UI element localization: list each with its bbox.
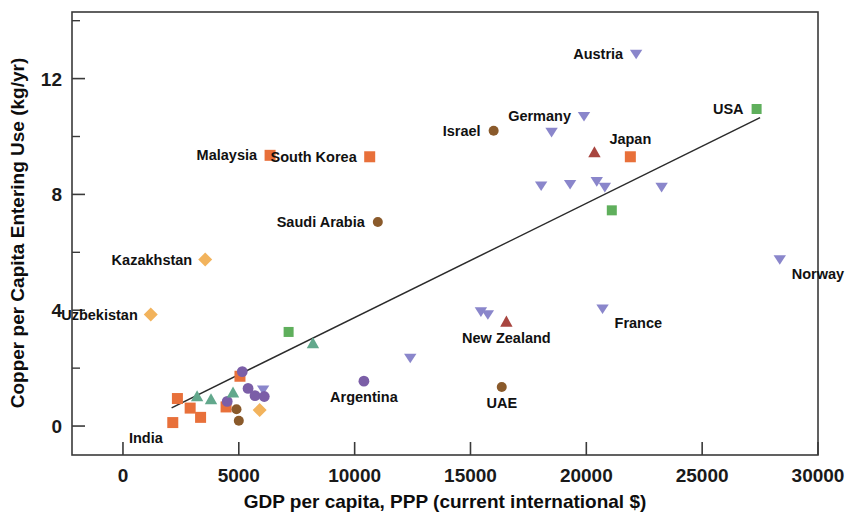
- x-tick-label: 25000: [676, 465, 729, 486]
- marker-triangle-down: [578, 112, 590, 122]
- point-label: UAE: [486, 395, 517, 411]
- chart-canvas: 04812 050001000015000200002500030000 Ind…: [0, 0, 854, 521]
- point-label: France: [615, 315, 663, 331]
- marker-square: [364, 151, 375, 162]
- marker-triangle-down: [599, 183, 611, 193]
- marker-diamond: [198, 253, 212, 267]
- marker-triangle-up: [500, 316, 512, 327]
- trend-line: [172, 118, 760, 408]
- y-tick-label: 12: [41, 69, 62, 90]
- point-label: Japan: [609, 131, 651, 147]
- marker-triangle-up: [191, 390, 203, 401]
- x-tick-label: 10000: [328, 465, 381, 486]
- y-tick-label: 8: [51, 184, 62, 205]
- marker-circle: [489, 126, 499, 136]
- marker-triangle-down: [482, 310, 494, 320]
- marker-circle: [222, 396, 233, 407]
- marker-square: [752, 104, 762, 114]
- x-tick-label: 30000: [792, 465, 845, 486]
- point-label: Uzbekistan: [61, 307, 138, 323]
- marker-triangle-down: [774, 255, 786, 265]
- marker-square: [167, 417, 178, 428]
- marker-circle: [259, 391, 270, 402]
- marker-circle: [234, 416, 244, 426]
- marker-square: [172, 393, 183, 404]
- scatter-chart-figure: 04812 050001000015000200002500030000 Ind…: [0, 0, 854, 521]
- plot-frame: [72, 12, 818, 455]
- marker-triangle-up: [307, 337, 319, 348]
- marker-square: [284, 327, 294, 337]
- marker-triangle-up: [227, 387, 239, 398]
- marker-triangle-up: [588, 146, 600, 157]
- marker-triangle-down: [630, 50, 642, 60]
- point-label: Austria: [573, 46, 624, 62]
- x-tick-label: 0: [118, 465, 129, 486]
- x-tick-label: 20000: [560, 465, 613, 486]
- data-points: [144, 50, 786, 428]
- point-label: USA: [713, 101, 744, 117]
- marker-circle: [231, 404, 241, 414]
- marker-circle: [359, 376, 370, 387]
- x-tick-label: 15000: [444, 465, 497, 486]
- point-label: Argentina: [330, 389, 399, 405]
- marker-circle: [237, 366, 248, 377]
- y-axis-ticks: 04812: [41, 21, 85, 437]
- point-label: Israel: [443, 123, 481, 139]
- point-label: South Korea: [271, 149, 358, 165]
- marker-square: [607, 205, 617, 215]
- marker-triangle-down: [655, 183, 667, 193]
- x-tick-label: 5000: [218, 465, 260, 486]
- x-axis-ticks: 050001000015000200002500030000: [118, 442, 845, 486]
- marker-triangle-down: [535, 181, 547, 191]
- y-axis-title: Copper per Capita Entering Use (kg/yr): [7, 58, 28, 409]
- marker-diamond: [144, 308, 158, 322]
- marker-circle: [373, 217, 383, 227]
- marker-triangle-down: [596, 304, 608, 314]
- marker-triangle-down: [564, 180, 576, 190]
- marker-triangle-down: [545, 128, 557, 138]
- point-label: New Zealand: [462, 330, 551, 346]
- marker-square: [185, 403, 196, 414]
- point-label: Germany: [508, 108, 571, 124]
- marker-triangle-down: [404, 354, 416, 364]
- point-label: Kazakhstan: [112, 252, 193, 268]
- x-axis-title: GDP per capita, PPP (current internation…: [244, 491, 647, 512]
- marker-diamond: [253, 403, 267, 417]
- point-label: Norway: [792, 266, 844, 282]
- trend-line-segment: [172, 118, 760, 408]
- y-tick-label: 0: [51, 416, 62, 437]
- point-label: Saudi Arabia: [277, 214, 366, 230]
- point-label: India: [129, 430, 164, 446]
- marker-triangle-up: [205, 393, 217, 404]
- point-label: Malaysia: [197, 147, 258, 163]
- marker-square: [195, 412, 206, 423]
- point-labels: IndiaKazakhstanUzbekistanMalaysiaArgenti…: [61, 46, 844, 446]
- marker-circle: [497, 382, 507, 392]
- marker-square: [625, 151, 636, 162]
- marker-circle: [250, 390, 261, 401]
